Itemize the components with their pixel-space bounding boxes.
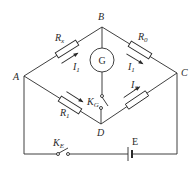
- node-label-a: A: [12, 71, 20, 82]
- switch-kg-terminal-bottom: [100, 107, 103, 110]
- switch-kg-lever: [102, 97, 108, 106]
- circuit-svg: G A B C D Rx R0 R1 KG KE E I1 I1 I2: [0, 0, 195, 169]
- battery: [128, 147, 132, 161]
- node-label-d: D: [96, 127, 105, 138]
- label-r1: R1: [59, 107, 70, 120]
- resistor-r0: [128, 41, 152, 59]
- label-i1-bc: I1: [127, 61, 135, 74]
- resistor-r2: [125, 91, 148, 109]
- label-rx: Rx: [54, 32, 65, 45]
- label-battery: E: [132, 136, 138, 147]
- wheatstone-bridge-diagram: G A B C D Rx R0 R1 KG KE E I1 I1 I2: [0, 0, 195, 169]
- node-label-c: C: [181, 67, 188, 78]
- label-i2-dc: I2: [130, 79, 138, 92]
- node-label-b: B: [98, 11, 104, 22]
- switch-kg: [100, 95, 109, 110]
- label-ke: KE: [52, 137, 65, 150]
- galvanometer: G: [90, 48, 114, 72]
- label-r0: R0: [137, 31, 148, 44]
- switch-ke-terminal-right: [67, 153, 70, 156]
- galvanometer-label: G: [98, 55, 105, 66]
- label-i1-ab: I1: [72, 61, 80, 74]
- label-kg: KG: [86, 96, 99, 109]
